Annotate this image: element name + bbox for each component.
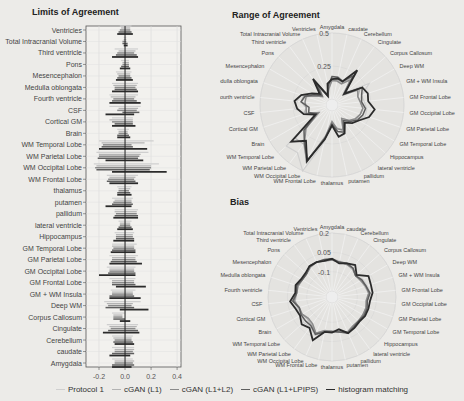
- svg-text:Ventricles: Ventricles: [292, 26, 316, 32]
- legend-item: Protocol 1: [56, 385, 104, 394]
- svg-text:Cortical GM: Cortical GM: [236, 316, 265, 322]
- svg-text:0.25: 0.25: [317, 63, 331, 70]
- svg-text:Mesencephalon: Mesencephalon: [226, 63, 265, 69]
- svg-text:Third ventricle: Third ventricle: [256, 237, 291, 243]
- svg-text:CSF: CSF: [243, 110, 255, 116]
- legend-swatch-icon: [241, 389, 250, 390]
- svg-text:0.2: 0.2: [146, 373, 156, 380]
- legend-label: histogram matching: [338, 385, 408, 394]
- legend-swatch-icon: [170, 389, 179, 390]
- svg-text:Medulla oblongata: Medulla oblongata: [220, 78, 259, 84]
- svg-text:Fourth ventricle: Fourth ventricle: [220, 94, 254, 100]
- svg-text:GM + WM Insula: GM + WM Insula: [30, 291, 82, 298]
- svg-text:Corpus Callosum: Corpus Callosum: [28, 314, 82, 322]
- svg-text:WM Frontal Lobe: WM Frontal Lobe: [28, 176, 82, 183]
- svg-text:Ventricles: Ventricles: [52, 27, 83, 34]
- svg-text:GM Temporal Lobe: GM Temporal Lobe: [393, 329, 440, 335]
- svg-text:thalamus: thalamus: [321, 364, 344, 370]
- svg-text:GM Occipital Lobe: GM Occipital Lobe: [402, 301, 447, 307]
- bias-radar: AmygdalacaudateCerebellumCingulateCorpus…: [220, 190, 464, 375]
- svg-text:WM Temporal Lobe: WM Temporal Lobe: [226, 154, 274, 160]
- svg-text:CSF: CSF: [68, 107, 82, 114]
- svg-text:GM Frontal Lobe: GM Frontal Lobe: [29, 279, 82, 286]
- svg-text:Medulla oblongata: Medulla oblongata: [220, 272, 266, 278]
- svg-text:Medulla oblongata: Medulla oblongata: [25, 84, 82, 92]
- svg-text:Cortical GM: Cortical GM: [45, 118, 82, 125]
- svg-text:lateral ventricle: lateral ventricle: [35, 222, 82, 229]
- svg-text:GM + WM Insula: GM + WM Insula: [406, 78, 448, 84]
- legend-item: cGAN (L1+LPIPS): [241, 385, 318, 394]
- legend: Protocol 1cGAN (L1)cGAN (L1+L2)cGAN (L1+…: [0, 385, 464, 394]
- svg-text:thalamus: thalamus: [54, 187, 83, 194]
- svg-text:Third ventricle: Third ventricle: [38, 49, 82, 56]
- svg-text:GM Frontal Lobe: GM Frontal Lobe: [402, 287, 443, 293]
- svg-text:Cingulate: Cingulate: [378, 39, 401, 45]
- svg-text:putamen: putamen: [347, 362, 368, 368]
- svg-text:WM Temporal Lobe: WM Temporal Lobe: [21, 141, 82, 149]
- svg-text:WM Parietal Lobe: WM Parietal Lobe: [242, 165, 286, 171]
- legend-item: cGAN (L1): [112, 385, 162, 394]
- svg-text:GM + WM Insula: GM + WM Insula: [399, 272, 441, 278]
- svg-text:Hippocampus: Hippocampus: [39, 233, 82, 241]
- svg-text:Corpus Callosum: Corpus Callosum: [384, 247, 427, 253]
- svg-text:Cingulate: Cingulate: [52, 325, 82, 333]
- svg-text:Brain: Brain: [259, 329, 272, 335]
- svg-text:0.05: 0.05: [317, 249, 331, 256]
- svg-text:-0.2: -0.2: [93, 373, 105, 380]
- svg-text:Pons: Pons: [261, 50, 274, 56]
- svg-text:Hippocampus: Hippocampus: [390, 154, 424, 160]
- svg-text:Brain: Brain: [252, 141, 265, 147]
- range-of-agreement-radar: AmygdalacaudateCerebellumCingulateCorpus…: [220, 0, 464, 190]
- legend-item: histogram matching: [326, 385, 408, 394]
- svg-text:GM Parietal Lobe: GM Parietal Lobe: [28, 256, 83, 263]
- svg-text:GM Parietal Lobe: GM Parietal Lobe: [399, 316, 442, 322]
- svg-text:WM Parietal Lobe: WM Parietal Lobe: [247, 351, 291, 357]
- svg-text:Fourth ventricle: Fourth ventricle: [224, 287, 262, 293]
- svg-text:Ventricles: Ventricles: [294, 226, 318, 232]
- legend-label: Protocol 1: [68, 385, 104, 394]
- svg-text:Cerebellum: Cerebellum: [46, 337, 82, 344]
- svg-text:lateral ventricle: lateral ventricle: [373, 351, 410, 357]
- svg-text:Deep WM: Deep WM: [400, 63, 425, 69]
- svg-text:Cerebellum: Cerebellum: [364, 31, 393, 37]
- svg-text:putamen: putamen: [348, 178, 369, 184]
- svg-text:Cingulate: Cingulate: [373, 237, 396, 243]
- svg-text:Total Intracranial Volume: Total Intracranial Volume: [5, 38, 82, 45]
- svg-text:Amygdala: Amygdala: [51, 360, 82, 368]
- legend-label: cGAN (L1+LPIPS): [253, 385, 318, 394]
- svg-text:CSF: CSF: [251, 301, 263, 307]
- limits-of-agreement-chart: -0.20.00.20.4VentriclesTotal Intracrania…: [0, 0, 230, 385]
- svg-text:pallidum: pallidum: [56, 210, 82, 218]
- svg-text:-0.1: -0.1: [318, 269, 330, 276]
- svg-text:GM Occipital Lobe: GM Occipital Lobe: [410, 110, 455, 116]
- svg-text:GM Frontal Lobe: GM Frontal Lobe: [410, 94, 451, 100]
- svg-text:GM Occipital Lobe: GM Occipital Lobe: [24, 268, 82, 276]
- svg-text:Cortical GM: Cortical GM: [229, 126, 258, 132]
- legend-swatch-icon: [326, 389, 335, 390]
- svg-text:0.5: 0.5: [319, 30, 329, 37]
- svg-text:GM Temporal Lobe: GM Temporal Lobe: [400, 141, 447, 147]
- svg-text:Hippocampus: Hippocampus: [384, 341, 418, 347]
- svg-text:Mesencephalon: Mesencephalon: [33, 72, 83, 80]
- svg-text:caudate: caudate: [57, 348, 82, 355]
- legend-swatch-icon: [56, 389, 65, 390]
- svg-text:WM Parietal Lobe: WM Parietal Lobe: [26, 153, 82, 160]
- svg-text:Fourth ventricle: Fourth ventricle: [34, 95, 82, 102]
- svg-text:thalamus: thalamus: [321, 180, 344, 186]
- svg-text:Mesencephalon: Mesencephalon: [233, 259, 272, 265]
- legend-swatch-icon: [112, 389, 121, 390]
- legend-item: cGAN (L1+L2): [170, 385, 233, 394]
- svg-text:Pons: Pons: [66, 61, 82, 68]
- svg-text:0.2: 0.2: [319, 230, 329, 237]
- svg-text:WM Temporal Lobe: WM Temporal Lobe: [232, 341, 280, 347]
- svg-text:Deep WM: Deep WM: [393, 259, 418, 265]
- svg-text:Corpus Callosum: Corpus Callosum: [390, 50, 433, 56]
- svg-text:Cerebellum: Cerebellum: [360, 230, 389, 236]
- svg-text:0.0: 0.0: [120, 373, 130, 380]
- svg-text:Pons: Pons: [267, 247, 280, 253]
- svg-text:GM Temporal Lobe: GM Temporal Lobe: [23, 245, 83, 253]
- svg-text:0.4: 0.4: [172, 373, 182, 380]
- svg-text:putamen: putamen: [55, 199, 82, 207]
- svg-text:Deep WM: Deep WM: [51, 302, 82, 310]
- svg-text:WM Occipital Lobe: WM Occipital Lobe: [254, 173, 300, 179]
